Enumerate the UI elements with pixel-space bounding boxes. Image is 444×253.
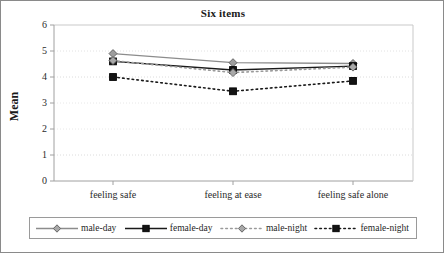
series-male-day: [109, 50, 357, 68]
legend-label-male-day: male-day: [81, 223, 118, 233]
legend-item-female-day: female-day: [124, 223, 215, 234]
x-tick-label-2: feeling safe alone: [293, 189, 413, 200]
chart-legend: male-day female-day male-night female-ni…: [29, 217, 417, 239]
legend-swatch-female-night: [314, 223, 358, 234]
plot-svg: [1, 1, 444, 211]
legend-swatch-graphic: [35, 223, 79, 234]
legend-label-female-day: female-day: [170, 223, 215, 233]
legend-swatch-female-day: [124, 223, 168, 234]
axes: [50, 25, 413, 185]
x-tick-label-1: feeling at ease: [173, 189, 293, 200]
legend-swatch-male-night: [220, 223, 264, 234]
legend-swatch-graphic: [314, 223, 358, 234]
plot-container: Six items Mean 6 5 4 3 2 1 0: [1, 1, 444, 211]
legend-label-female-night: female-night: [360, 223, 411, 233]
chart-figure: Six items Mean 6 5 4 3 2 1 0: [0, 0, 444, 253]
data-point-square: [110, 74, 117, 81]
legend-item-female-night: female-night: [314, 223, 411, 234]
x-tick-label-0: feeling safe: [53, 189, 173, 200]
legend-item-male-day: male-day: [35, 223, 118, 234]
data-point-square: [350, 78, 357, 85]
legend-label-male-night: male-night: [266, 223, 309, 233]
data-point-diamond: [229, 59, 237, 67]
legend-item-male-night: male-night: [220, 223, 309, 234]
data-series-layer: [109, 50, 357, 95]
legend-swatch-graphic: [124, 223, 168, 234]
legend-swatch-graphic: [220, 223, 264, 234]
data-point-square: [230, 88, 237, 95]
legend-swatch-male-day: [35, 223, 79, 234]
